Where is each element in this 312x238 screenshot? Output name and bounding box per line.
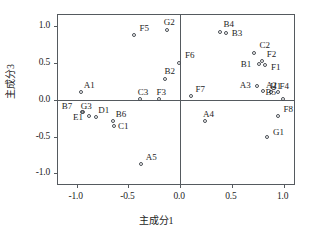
scatter-plot-figure: F5G2B4B3C2F2F1B1F6B2A3A2H1F4A1F3C3F7B5B7…	[0, 0, 312, 238]
data-point-marker	[265, 135, 269, 139]
x-axis-title: 主成分1	[0, 212, 312, 227]
y-tick-mark	[54, 63, 58, 64]
data-point-label: A3	[240, 81, 251, 90]
x-tick-label: 0.5	[225, 191, 236, 201]
data-point-label: F6	[185, 51, 195, 60]
y-tick-label: -0.5	[14, 131, 50, 141]
y-tick-label: 0.5	[14, 57, 50, 67]
x-tick-mark	[128, 184, 129, 188]
x-tick-label: 1.0	[277, 191, 288, 201]
data-point-marker	[111, 119, 115, 123]
x-tick-label: 0.0	[173, 191, 184, 201]
x-tick-mark	[77, 184, 78, 188]
data-point-marker	[263, 63, 267, 67]
data-point-marker	[163, 77, 167, 81]
data-point-label: A1	[84, 81, 95, 90]
data-point-label: C1	[118, 122, 129, 131]
y-axis-title: 主成分3	[2, 64, 17, 99]
data-point-marker	[261, 89, 265, 93]
y-tick-label: 1.0	[14, 20, 50, 30]
data-point-marker	[138, 97, 142, 101]
data-point-label: G3	[81, 102, 92, 111]
y-zero-axis-line	[180, 15, 181, 184]
data-point-label: G1	[273, 128, 284, 137]
y-tick-mark	[54, 100, 58, 101]
data-point-marker	[177, 61, 181, 65]
data-point-marker	[257, 62, 261, 66]
data-point-marker	[189, 94, 193, 98]
data-point-label: F2	[267, 50, 277, 59]
data-point-label: B6	[116, 110, 127, 119]
y-tick-label: 0.0	[14, 94, 50, 104]
data-point-marker	[94, 115, 98, 119]
data-point-marker	[112, 124, 116, 128]
x-tick-mark	[232, 184, 233, 188]
data-point-marker	[224, 31, 228, 35]
y-tick-label: -1.0	[14, 167, 50, 177]
data-point-marker	[132, 33, 136, 37]
data-point-label: B1	[241, 60, 252, 69]
data-point-marker	[79, 90, 83, 94]
data-point-label: F4	[279, 82, 289, 91]
data-point-marker	[276, 114, 280, 118]
data-point-label: E1	[73, 113, 83, 122]
plot-area: F5G2B4B3C2F2F1B1F6B2A3A2H1F4A1F3C3F7B5B7…	[57, 14, 295, 185]
data-point-marker	[218, 30, 222, 34]
data-point-label: B5	[266, 88, 277, 97]
data-point-label: B2	[165, 67, 176, 76]
data-point-marker	[165, 28, 169, 32]
y-tick-mark	[54, 173, 58, 174]
data-point-marker	[281, 97, 285, 101]
data-point-marker	[87, 114, 91, 118]
data-point-marker	[139, 162, 143, 166]
x-tick-label: -0.5	[120, 191, 134, 201]
x-tick-mark	[180, 184, 181, 188]
data-point-label: F1	[271, 63, 281, 72]
data-point-label: F7	[195, 85, 205, 94]
x-zero-axis-line	[58, 100, 294, 101]
x-tick-mark	[284, 184, 285, 188]
data-point-marker	[255, 84, 259, 88]
data-point-marker	[203, 119, 207, 123]
data-point-label: F5	[140, 24, 150, 33]
data-point-label: F8	[283, 105, 293, 114]
data-point-label: B3	[232, 29, 243, 38]
y-tick-mark	[54, 137, 58, 138]
data-point-label: B7	[62, 102, 73, 111]
data-point-label: C3	[138, 88, 149, 97]
data-point-label: A4	[203, 110, 214, 119]
data-point-label: G2	[164, 18, 175, 27]
data-point-label: A5	[146, 153, 157, 162]
y-tick-mark	[54, 26, 58, 27]
data-point-marker	[252, 51, 256, 55]
data-point-label: F3	[156, 88, 166, 97]
x-tick-label: -1.0	[69, 191, 83, 201]
data-point-label: D1	[98, 106, 109, 115]
